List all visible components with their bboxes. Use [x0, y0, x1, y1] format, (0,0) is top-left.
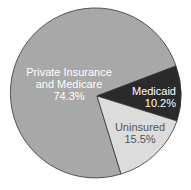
label-private-line1: Private Insurance — [22, 66, 116, 78]
label-uninsured-value: 15.5% — [112, 133, 168, 145]
label-medicaid-name: Medicaid — [128, 85, 176, 97]
label-medicaid: Medicaid 10.2% — [128, 85, 176, 109]
label-private-line2: and Medicare — [22, 78, 116, 90]
label-medicaid-value: 10.2% — [128, 97, 176, 109]
label-uninsured-name: Uninsured — [112, 121, 168, 133]
label-uninsured: Uninsured 15.5% — [112, 121, 168, 145]
label-private-value: 74.3% — [22, 90, 116, 102]
label-private-insurance: Private Insurance and Medicare 74.3% — [22, 66, 116, 102]
